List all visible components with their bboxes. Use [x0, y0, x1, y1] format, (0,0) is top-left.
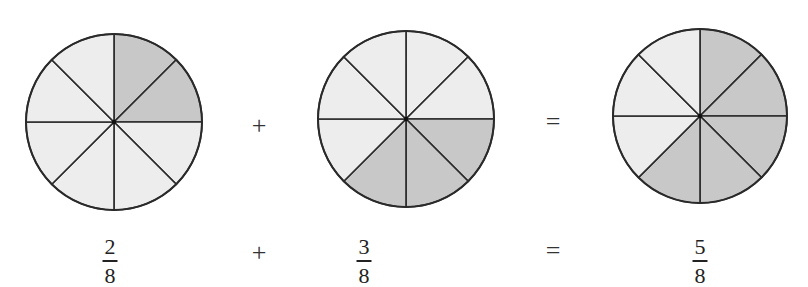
fraction-bar — [357, 260, 372, 262]
numerator: 3 — [357, 236, 372, 258]
fraction-two-eighths: 2 8 — [103, 236, 118, 287]
center-dot — [112, 120, 116, 124]
fraction-bar — [693, 260, 708, 262]
center-dot — [698, 114, 702, 118]
fraction-bar — [103, 260, 118, 262]
fraction-circle-two-eighths — [26, 34, 202, 210]
fraction-three-eighths: 3 8 — [357, 236, 372, 287]
numerator: 5 — [693, 236, 708, 258]
denominator: 8 — [693, 265, 708, 287]
fraction-circle-three-eighths — [318, 31, 494, 207]
center-dot — [404, 117, 408, 121]
equals-sign: = — [546, 238, 561, 264]
fraction-circles-diagram — [0, 0, 808, 230]
denominator: 8 — [103, 265, 118, 287]
fraction-circle-five-eighths — [613, 29, 787, 203]
equals-sign-top: = — [546, 109, 561, 135]
fraction-five-eighths: 5 8 — [693, 236, 708, 287]
numerator: 2 — [103, 236, 118, 258]
plus-sign-top: + — [252, 113, 267, 139]
denominator: 8 — [357, 265, 372, 287]
plus-sign: + — [252, 240, 267, 266]
